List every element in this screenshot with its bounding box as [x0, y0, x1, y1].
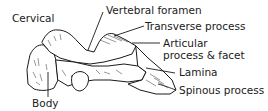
label-spinous-process: Spinous process: [179, 84, 264, 96]
label-articular: Articular: [163, 37, 208, 49]
label-process-facet: process & facet: [163, 49, 245, 61]
cervical-vertebra-diagram: Cervical Vertebral foramen Transverse pr…: [0, 0, 268, 111]
title-cervical: Cervical: [12, 12, 54, 24]
label-transverse-process: Transverse process: [145, 20, 245, 32]
label-body: Body: [32, 97, 59, 109]
label-lamina: Lamina: [179, 66, 218, 78]
label-vertebral-foramen: Vertebral foramen: [106, 4, 202, 16]
